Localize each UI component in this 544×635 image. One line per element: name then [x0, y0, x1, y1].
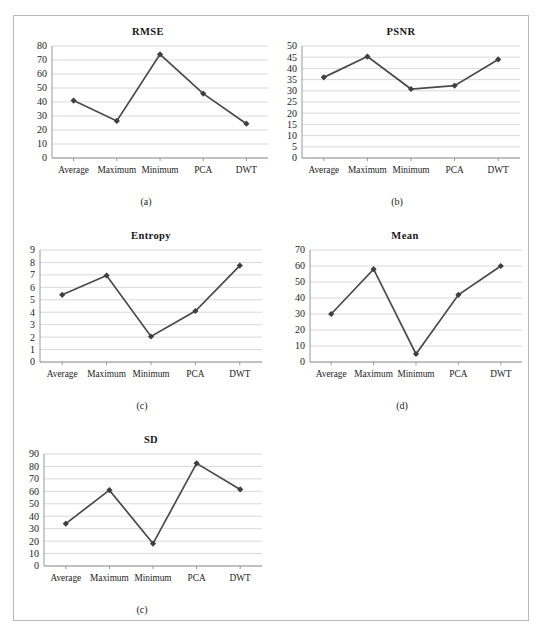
x-axis-tick-label: PCA	[449, 369, 467, 379]
y-axis-tick-label: 35	[287, 74, 297, 85]
y-axis-tick-label: 50	[37, 82, 47, 93]
y-axis-tick-label: 7	[30, 269, 35, 280]
figure-page-frame: RMSE 01020304050607080AverageMaximumMini…	[13, 15, 529, 621]
y-axis-tick-label: 5	[292, 141, 297, 152]
y-axis-tick-label: 10	[29, 548, 39, 559]
x-axis-tick-label: PCA	[446, 165, 464, 175]
y-axis-tick-label: 50	[287, 40, 297, 51]
chart-title-entropy: Entropy	[16, 228, 268, 244]
chart-title-sd: SD	[16, 432, 268, 448]
plot-area-mean: 010203040506070AverageMaximumMinimumPCAD…	[282, 244, 528, 388]
y-axis-tick-label: 20	[37, 124, 47, 135]
y-axis-tick-label: 50	[29, 498, 39, 509]
x-axis-tick-label: PCA	[186, 369, 204, 379]
y-axis-tick-label: 60	[295, 260, 305, 271]
y-axis-tick-label: 60	[37, 68, 47, 79]
data-point-marker	[59, 292, 65, 298]
x-axis-tick-label: Average	[47, 369, 78, 379]
chart-panel-psnr: PSNR 05101520253035404550AverageMaximumM…	[276, 24, 526, 224]
plot-area-rmse: 01020304050607080AverageMaximumMinimumPC…	[22, 40, 274, 184]
plot-area-psnr: 05101520253035404550AverageMaximumMinimu…	[276, 40, 526, 184]
data-series-line	[62, 266, 240, 337]
figure-grid: RMSE 01020304050607080AverageMaximumMini…	[14, 16, 528, 620]
plot-area-entropy: 0123456789AverageMaximumMinimumPCADWT	[16, 244, 268, 388]
x-axis-tick-label: DWT	[488, 165, 509, 175]
y-axis-tick-label: 30	[287, 85, 297, 96]
y-axis-tick-label: 60	[29, 486, 39, 497]
x-axis-tick-label: Maximum	[87, 369, 127, 379]
chart-title-psnr: PSNR	[276, 24, 526, 40]
y-axis-tick-label: 10	[287, 130, 297, 141]
chart-panel-sd: SD 0102030405060708090AverageMaximumMini…	[16, 432, 268, 622]
x-axis-tick-label: Maximum	[97, 165, 137, 175]
y-axis-tick-label: 70	[37, 54, 47, 65]
chart-title-rmse: RMSE	[22, 24, 274, 40]
y-axis-tick-label: 80	[29, 461, 39, 472]
y-axis-tick-label: 5	[30, 294, 35, 305]
chart-svg-rmse: 01020304050607080AverageMaximumMinimumPC…	[22, 40, 274, 184]
y-axis-tick-label: 0	[30, 356, 35, 367]
y-axis-tick-label: 0	[300, 356, 305, 367]
y-axis-tick-label: 4	[30, 307, 35, 318]
x-axis-tick-label: PCA	[188, 573, 206, 583]
y-axis-tick-label: 10	[295, 340, 305, 351]
x-axis-tick-label: Maximum	[354, 369, 394, 379]
y-axis-tick-label: 25	[287, 96, 297, 107]
chart-panel-mean: Mean 010203040506070AverageMaximumMinimu…	[282, 228, 528, 428]
y-axis-tick-label: 40	[37, 96, 47, 107]
y-axis-tick-label: 20	[287, 108, 297, 119]
x-axis-tick-label: DWT	[490, 369, 511, 379]
figure-caption-b: (b)	[268, 196, 526, 207]
x-axis-tick-label: Average	[316, 369, 347, 379]
y-axis-tick-label: 40	[287, 63, 297, 74]
data-series-line	[324, 57, 498, 89]
y-axis-tick-label: 20	[29, 536, 39, 547]
y-axis-tick-label: 2	[30, 332, 35, 343]
x-axis-tick-label: Minimum	[132, 369, 170, 379]
x-axis-tick-label: DWT	[236, 165, 257, 175]
x-axis-tick-label: Minimum	[134, 573, 172, 583]
chart-svg-mean: 010203040506070AverageMaximumMinimumPCAD…	[282, 244, 528, 388]
y-axis-tick-label: 45	[287, 52, 297, 63]
plot-area-sd: 0102030405060708090AverageMaximumMinimum…	[16, 448, 268, 592]
y-axis-tick-label: 30	[295, 308, 305, 319]
figure-caption-e: (c)	[16, 604, 268, 615]
y-axis-tick-label: 20	[295, 324, 305, 335]
y-axis-tick-label: 0	[292, 152, 297, 163]
figure-caption-a: (a)	[18, 196, 274, 207]
x-axis-tick-label: DWT	[230, 573, 251, 583]
y-axis-tick-label: 10	[37, 138, 47, 149]
x-axis-tick-label: Maximum	[348, 165, 388, 175]
chart-panel-entropy: Entropy 0123456789AverageMaximumMinimumP…	[16, 228, 268, 428]
y-axis-tick-label: 8	[30, 257, 35, 268]
y-axis-tick-label: 40	[295, 292, 305, 303]
y-axis-tick-label: 30	[29, 523, 39, 534]
y-axis-tick-label: 90	[29, 448, 39, 459]
x-axis-tick-label: Minimum	[141, 165, 179, 175]
chart-svg-sd: 0102030405060708090AverageMaximumMinimum…	[16, 448, 268, 592]
chart-title-mean: Mean	[282, 228, 528, 244]
y-axis-tick-label: 70	[29, 473, 39, 484]
x-axis-tick-label: Minimum	[392, 165, 430, 175]
figure-caption-c: (c)	[16, 400, 268, 411]
y-axis-tick-label: 3	[30, 319, 35, 330]
y-axis-tick-label: 80	[37, 40, 47, 51]
y-axis-tick-label: 0	[42, 152, 47, 163]
x-axis-tick-label: Average	[50, 573, 81, 583]
y-axis-tick-label: 15	[287, 119, 297, 130]
data-series-line	[74, 54, 247, 123]
x-axis-tick-label: Maximum	[90, 573, 130, 583]
y-axis-tick-label: 6	[30, 282, 35, 293]
x-axis-tick-label: PCA	[194, 165, 212, 175]
y-axis-tick-label: 9	[30, 244, 35, 255]
x-axis-tick-label: Average	[308, 165, 339, 175]
x-axis-tick-label: Minimum	[397, 369, 435, 379]
y-axis-tick-label: 40	[29, 511, 39, 522]
chart-svg-entropy: 0123456789AverageMaximumMinimumPCADWT	[16, 244, 268, 388]
y-axis-tick-label: 30	[37, 110, 47, 121]
data-point-marker	[71, 98, 77, 104]
y-axis-tick-label: 0	[34, 560, 39, 571]
y-axis-tick-label: 50	[295, 276, 305, 287]
figure-caption-d: (d)	[276, 400, 528, 411]
y-axis-tick-label: 70	[295, 244, 305, 255]
